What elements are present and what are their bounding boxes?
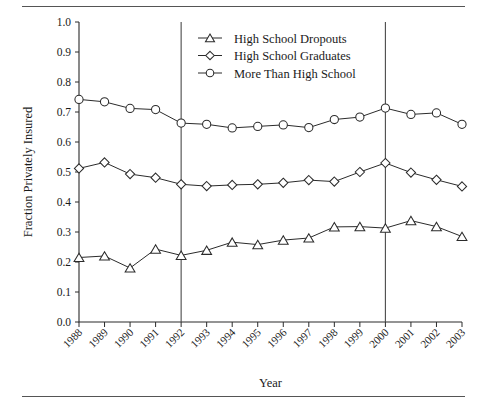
y-axis-tick-label: 0.2 <box>57 256 72 268</box>
data-point-diamond <box>202 182 211 191</box>
data-point-triangle <box>151 245 161 253</box>
data-point-triangle <box>406 216 416 224</box>
data-point-circle <box>152 106 160 114</box>
y-axis-tick-label: 0.3 <box>57 226 72 238</box>
data-point-circle <box>356 113 364 121</box>
data-point-diamond <box>151 173 160 182</box>
data-point-circle <box>381 104 389 112</box>
data-point-circle <box>206 69 214 77</box>
data-point-circle <box>254 122 262 130</box>
data-point-circle <box>432 109 440 117</box>
data-point-triangle <box>202 246 212 254</box>
data-point-circle <box>330 115 338 123</box>
x-axis-tick-label: 2002 <box>418 326 442 350</box>
bottom-rule <box>22 396 465 397</box>
y-axis-tick-label: 0.7 <box>57 106 72 118</box>
series-3 <box>75 95 466 132</box>
x-axis-tick-label: 1990 <box>111 326 135 350</box>
x-axis-tick-label: 1989 <box>86 326 110 350</box>
data-point-circle <box>100 98 108 106</box>
series-line <box>79 221 462 268</box>
x-axis-tick-label: 1997 <box>290 326 314 350</box>
x-axis-tick-label: 1996 <box>265 326 289 350</box>
data-point-triangle <box>176 251 186 259</box>
y-axis-tick-label: 0.1 <box>57 286 72 298</box>
data-point-diamond <box>206 51 214 59</box>
y-axis-tick-label: 0.9 <box>57 46 72 58</box>
series-line <box>79 162 462 186</box>
data-point-diamond <box>228 180 237 189</box>
x-axis-tick-label: 1999 <box>341 326 365 350</box>
y-axis-tick-label: 0.8 <box>57 76 72 88</box>
y-axis-tick-label: 0.5 <box>57 166 72 178</box>
data-point-diamond <box>355 167 364 176</box>
series-2 <box>74 158 466 191</box>
legend-label: More Than High School <box>234 67 356 81</box>
data-point-circle <box>228 124 236 132</box>
data-point-diamond <box>381 158 390 167</box>
x-axis-tick-label: 2000 <box>367 326 391 350</box>
data-point-circle <box>407 110 415 118</box>
y-axis-tick-label: 0.6 <box>57 136 72 148</box>
data-point-diamond <box>330 177 339 186</box>
data-point-diamond <box>406 168 415 177</box>
top-rule <box>22 6 465 7</box>
x-axis-tick-label: 2003 <box>443 326 467 350</box>
legend-label: High School Graduates <box>234 49 351 63</box>
data-point-triangle <box>432 222 442 230</box>
data-point-diamond <box>125 170 134 179</box>
x-axis-tick-label: 1992 <box>163 326 187 350</box>
data-point-diamond <box>304 176 313 185</box>
y-axis-title: Fraction Privately Insured <box>21 106 35 237</box>
x-axis-tick-label: 1993 <box>188 326 212 350</box>
figure-container: 0.00.10.20.30.40.50.60.70.80.91.01988198… <box>0 0 487 409</box>
x-axis-tick-label: 1994 <box>214 326 238 350</box>
data-point-circle <box>305 124 313 132</box>
data-point-circle <box>458 120 466 128</box>
data-point-circle <box>279 121 287 129</box>
y-axis-tick-label: 0.0 <box>57 316 72 328</box>
y-axis-tick-label: 1.0 <box>57 16 72 28</box>
data-point-diamond <box>253 180 262 189</box>
x-axis-tick-label: 1995 <box>239 326 263 350</box>
data-point-circle <box>177 119 185 127</box>
x-axis-tick-label: 1988 <box>60 326 84 350</box>
data-point-circle <box>75 95 83 103</box>
data-point-diamond <box>457 182 466 191</box>
legend-item[interactable]: High School Dropouts <box>198 32 347 46</box>
data-point-circle <box>126 104 134 112</box>
series-1 <box>74 216 467 272</box>
data-point-diamond <box>177 180 186 189</box>
data-point-triangle <box>457 232 467 240</box>
data-point-diamond <box>432 175 441 184</box>
data-point-circle <box>203 120 211 128</box>
data-point-diamond <box>100 158 109 167</box>
line-chart: 0.00.10.20.30.40.50.60.70.80.91.01988198… <box>0 0 487 409</box>
x-axis-title: Year <box>259 376 283 390</box>
y-axis-tick-label: 0.4 <box>57 196 72 208</box>
legend-item[interactable]: More Than High School <box>198 67 356 81</box>
data-point-diamond <box>279 178 288 187</box>
x-axis-tick-label: 1998 <box>316 326 340 350</box>
x-axis-tick-label: 1991 <box>137 326 161 350</box>
x-axis-tick-label: 2001 <box>392 326 416 350</box>
series-line <box>79 99 462 128</box>
legend-item[interactable]: High School Graduates <box>198 49 351 63</box>
legend-label: High School Dropouts <box>234 32 347 46</box>
